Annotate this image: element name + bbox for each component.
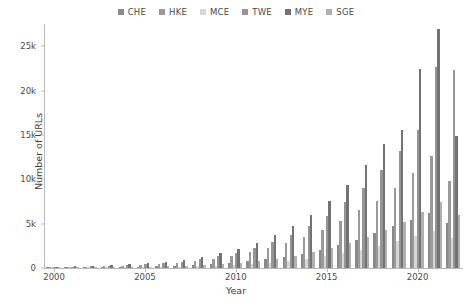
legend-item-twe[interactable]: TWE <box>242 8 272 17</box>
bar-sge-2020 <box>421 212 423 268</box>
legend-swatch-icon <box>242 9 248 15</box>
plot-area <box>45 24 463 268</box>
legend-label: TWE <box>252 8 272 17</box>
bar-group-2008 <box>192 24 208 268</box>
x-axis-label: Year <box>0 285 472 296</box>
bar-group-2017 <box>355 24 371 268</box>
bar-sge-2006 <box>167 266 169 268</box>
legend-swatch-icon <box>285 9 291 15</box>
y-tick-mark <box>41 179 44 180</box>
bar-group-2000 <box>46 24 62 268</box>
bar-group-2002 <box>83 24 99 268</box>
bar-sge-2008 <box>203 265 205 268</box>
bar-group-2003 <box>101 24 117 268</box>
x-axis-line <box>44 268 463 269</box>
bar-group-2007 <box>173 24 189 268</box>
legend-item-mce[interactable]: MCE <box>200 8 229 17</box>
x-tick-mark <box>327 269 328 272</box>
bar-group-2018 <box>373 24 389 268</box>
bar-sge-2009 <box>222 264 224 268</box>
bar-group-2010 <box>228 24 244 268</box>
x-tick-label: 2000 <box>43 272 65 282</box>
bar-sge-2002 <box>94 267 96 268</box>
bar-group-2013 <box>283 24 299 268</box>
legend-swatch-icon <box>200 9 206 15</box>
x-tick-label: 2015 <box>316 272 338 282</box>
y-tick-label: 20k <box>2 86 36 96</box>
legend-label: HKE <box>169 8 187 17</box>
x-tick-mark <box>418 269 419 272</box>
bar-sge-2001 <box>76 267 78 268</box>
bar-group-2004 <box>119 24 135 268</box>
bar-sge-2003 <box>113 267 115 268</box>
bar-sge-2018 <box>385 230 387 268</box>
legend-label: CHE <box>128 8 146 17</box>
bar-sge-2000 <box>58 267 60 268</box>
legend-swatch-icon <box>326 9 332 15</box>
y-tick-mark <box>41 134 44 135</box>
chart-figure: CHEHKEMCETWEMYESGE Number of URLs Year 0… <box>0 0 472 304</box>
legend-item-mye[interactable]: MYE <box>285 8 314 17</box>
bar-group-2022 <box>446 24 462 268</box>
chart-legend: CHEHKEMCETWEMYESGE <box>0 4 472 20</box>
bar-sge-2004 <box>131 267 133 268</box>
y-tick-label: 25k <box>2 41 36 51</box>
y-tick-label: 5k <box>2 219 36 229</box>
bar-group-2015 <box>319 24 335 268</box>
x-tick-label: 2010 <box>225 272 247 282</box>
bar-sge-2005 <box>149 267 151 268</box>
bar-group-2005 <box>137 24 153 268</box>
y-tick-label: 10k <box>2 174 36 184</box>
legend-label: SGE <box>336 8 354 17</box>
x-tick-label: 2020 <box>407 272 429 282</box>
bar-group-2009 <box>210 24 226 268</box>
bar-sge-2019 <box>403 222 405 268</box>
bar-sge-2022 <box>458 215 460 268</box>
bar-sge-2011 <box>258 261 260 268</box>
bar-sge-2010 <box>240 263 242 268</box>
bar-group-2014 <box>301 24 317 268</box>
bar-group-2006 <box>155 24 171 268</box>
y-axis-label: Number of URLs <box>33 92 44 212</box>
legend-swatch-icon <box>159 9 165 15</box>
x-tick-mark <box>54 269 55 272</box>
y-tick-mark <box>41 268 44 269</box>
bar-sge-2013 <box>294 256 296 268</box>
bar-sge-2007 <box>185 266 187 268</box>
legend-item-sge[interactable]: SGE <box>326 8 354 17</box>
y-tick-label: 0 <box>2 263 36 273</box>
x-tick-label: 2005 <box>134 272 156 282</box>
bar-sge-2014 <box>312 252 314 268</box>
bar-sge-2017 <box>367 237 369 268</box>
bar-sge-2021 <box>440 202 442 268</box>
legend-item-che[interactable]: CHE <box>118 8 146 17</box>
legend-label: MYE <box>295 8 314 17</box>
legend-item-hke[interactable]: HKE <box>159 8 187 17</box>
y-tick-mark <box>41 90 44 91</box>
legend-label: MCE <box>210 8 229 17</box>
bar-group-2011 <box>246 24 262 268</box>
bar-group-2012 <box>264 24 280 268</box>
legend-swatch-icon <box>118 9 124 15</box>
bar-group-2019 <box>392 24 408 268</box>
x-tick-mark <box>236 269 237 272</box>
bar-group-2020 <box>410 24 426 268</box>
bar-sge-2012 <box>276 259 278 268</box>
y-tick-mark <box>41 223 44 224</box>
y-tick-label: 15k <box>2 130 36 140</box>
bar-sge-2015 <box>331 248 333 268</box>
bar-sge-2016 <box>349 243 351 268</box>
x-tick-mark <box>145 269 146 272</box>
bar-group-2016 <box>337 24 353 268</box>
y-tick-mark <box>41 46 44 47</box>
bar-group-2021 <box>428 24 444 268</box>
bar-group-2001 <box>64 24 80 268</box>
